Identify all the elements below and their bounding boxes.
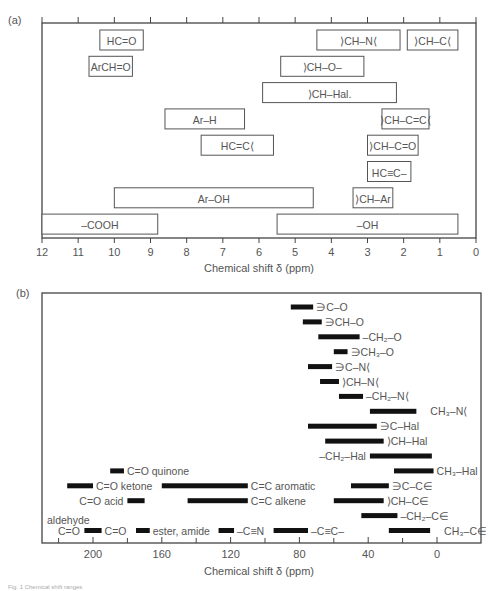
panel-a-label: (a) xyxy=(8,14,21,26)
range-bar-rect xyxy=(334,498,384,503)
range-bar-rect xyxy=(361,513,397,518)
range-box-label: –OH xyxy=(357,219,379,231)
range-bar-label: ester, amide xyxy=(153,525,210,537)
range-bar-label: –C≡C– xyxy=(311,525,344,537)
range-bar-ch-n: CH₃–N⟨ xyxy=(370,405,467,417)
range-box-ar-h: Ar–H xyxy=(165,109,245,129)
range-bar-rect xyxy=(308,424,377,429)
range-bar-label: C=C alkene xyxy=(251,495,306,507)
range-box-label: ⟩CH–N⟨ xyxy=(340,35,377,47)
range-bar-label: –CH₂–O xyxy=(363,331,402,343)
panel-b-tick-label: 40 xyxy=(362,548,374,560)
range-bar-label: ⟩CH–Hal xyxy=(387,435,428,447)
panel-b-label: (b) xyxy=(16,287,29,299)
range-bar-ch-o: ∋CH–O xyxy=(303,316,364,328)
range-bar-label: ⟩CH–N⟨ xyxy=(342,376,379,388)
range-bar-label: ∋CH₃–O xyxy=(351,346,394,358)
range-bar-label: ∋C–Hal xyxy=(380,420,419,432)
range-bar-c-o-acid: C=O acid xyxy=(79,495,144,507)
nmr-chemical-shift-figure: (a) 1211109876543210 HC=O⟩CH–N⟨⟩CH–C⟨ArC… xyxy=(0,0,499,591)
range-bar-c-o-quinone: C=O quinone xyxy=(110,465,189,477)
range-bar-rect xyxy=(188,498,248,503)
panel-a-proton-shifts: (a) 1211109876543210 HC=O⟩CH–N⟨⟩CH–C⟨ArC… xyxy=(8,14,479,274)
range-bar-rect xyxy=(303,319,322,324)
range-bar-rect xyxy=(339,394,363,399)
range-bar-label: C=O acid xyxy=(79,495,123,507)
range-box-hc-o: HC=O xyxy=(100,30,143,50)
range-box-ch-n: ⟩CH–N⟨ xyxy=(317,30,400,50)
range-bar-ch-n: –CH₂–N⟨ xyxy=(339,390,409,402)
range-bar-label: –C≡N xyxy=(237,525,264,537)
panel-a-tick-label: 6 xyxy=(256,246,262,258)
range-bar-rect xyxy=(334,349,348,354)
range-box-ar-oh: Ar–OH xyxy=(114,188,313,208)
range-box-label: ⟩CH–C⟨ xyxy=(414,35,451,47)
range-box-ch-o: ⟩CH–O– xyxy=(281,56,364,76)
range-box-ch-c: ⟩CH–C⟨ xyxy=(407,30,458,50)
range-box-hc-c: HC=C⟨ xyxy=(201,135,273,155)
range-bar-c-c: ∋C–C∈ xyxy=(351,480,433,492)
range-bar-ch-hal: ⟩CH–Hal xyxy=(325,435,427,447)
panel-a-tick-label: 11 xyxy=(72,246,83,258)
range-box-label: ⟩CH–O– xyxy=(303,61,342,73)
range-bar-rect xyxy=(67,483,93,488)
range-bar-label: ⟩CH–C∈ xyxy=(387,495,430,507)
panel-b-tick-label: 0 xyxy=(434,548,440,560)
range-box-label: ⟩CH–Hal. xyxy=(308,88,352,100)
panel-a-tick-label: 5 xyxy=(292,246,298,258)
range-bar-rect xyxy=(308,364,332,369)
range-bar-rect xyxy=(389,528,430,533)
range-box-ch-c-o: ⟩CH–C=O xyxy=(368,135,419,155)
range-bar-label: ∋CH–O xyxy=(325,316,364,328)
range-bar-c-hal: ∋C–Hal xyxy=(308,420,419,432)
range-bar-c-n: –C≡N xyxy=(219,525,265,537)
range-bar-label: C=C aromatic xyxy=(251,480,315,492)
panel-a-tick-label: 10 xyxy=(108,246,120,258)
range-box-label: –COOH xyxy=(81,219,118,231)
panel-b-tick-label: 120 xyxy=(221,548,239,560)
range-bar-rect xyxy=(370,454,432,459)
panel-a-x-axis-title: Chemical shift δ (ppm) xyxy=(204,262,314,274)
panel-a-ranges: HC=O⟩CH–N⟨⟩CH–C⟨ArCH=O⟩CH–O–⟩CH–Hal.Ar–H… xyxy=(42,30,458,234)
range-bar-c-c-alkene: C=C alkene xyxy=(188,495,307,507)
panel-a-tick-label: 9 xyxy=(147,246,153,258)
range-bar-ch-c: ⟩CH–C∈ xyxy=(334,495,429,507)
range-box-ch-c-c: ⟩CH–C=C⟨ xyxy=(380,109,430,129)
panel-a-tick-label: 12 xyxy=(36,246,48,258)
range-box-label: HC≡C– xyxy=(372,167,407,179)
annotation-aldehyde-co: C=O xyxy=(58,525,80,537)
range-bar-rect xyxy=(318,334,359,339)
range-bar-c-n: ∋C–N⟨ xyxy=(308,361,370,373)
range-bar-rect xyxy=(370,409,416,414)
panel-b-tick-label: 80 xyxy=(293,548,305,560)
range-bar-label: ∋C–O xyxy=(316,301,348,313)
panel-a-tick-label: 0 xyxy=(473,246,479,258)
panel-a-tick-label: 7 xyxy=(220,246,226,258)
range-bar-label: C=O ketone xyxy=(96,480,152,492)
range-bar-label: CH₃–C∈ xyxy=(444,525,487,537)
panel-b-carbon-shifts: (b) 20016012080400 ∋C–O∋CH–O–CH₂–O∋CH₃–O… xyxy=(16,287,487,577)
range-box-arch-o: ArCH=O xyxy=(89,56,132,76)
range-box-label: ⟩CH–C=C⟨ xyxy=(380,114,430,126)
panel-b-x-axis: 20016012080400 xyxy=(59,537,440,560)
range-bar-rect xyxy=(325,439,383,444)
range-bar-rect xyxy=(219,528,234,533)
range-box-ch-ar: ⟩CH–Ar xyxy=(353,188,393,208)
range-box-label: ⟩CH–C=O xyxy=(369,140,416,152)
range-bar-label: ∋C–C∈ xyxy=(392,480,433,492)
range-bar-rect xyxy=(162,483,248,488)
range-bar-ch-o: ∋CH₃–O xyxy=(334,346,394,358)
range-bar-c-o-ketone: C=O ketone xyxy=(67,480,152,492)
range-bar-ester-amide: ester, amide xyxy=(136,525,210,537)
range-bar-ch-o: –CH₂–O xyxy=(318,331,401,343)
range-bar-ch-hal: CH₃–Hal xyxy=(394,465,478,477)
range-bar-label: ∋C–N⟨ xyxy=(335,361,370,373)
range-bar-rect xyxy=(84,528,101,533)
panel-b-tick-label: 200 xyxy=(84,548,102,560)
panel-a-tick-label: 2 xyxy=(401,246,407,258)
range-bar-rect xyxy=(320,379,339,384)
range-box-label: ArCH=O xyxy=(91,61,131,73)
range-box-hc-c: HC≡C– xyxy=(368,162,411,182)
range-bar-label: –CH₂–N⟨ xyxy=(366,390,409,402)
panel-b-ranges: ∋C–O∋CH–O–CH₂–O∋CH₃–O∋C–N⟨⟩CH–N⟨–CH₂–N⟨C… xyxy=(47,301,487,537)
